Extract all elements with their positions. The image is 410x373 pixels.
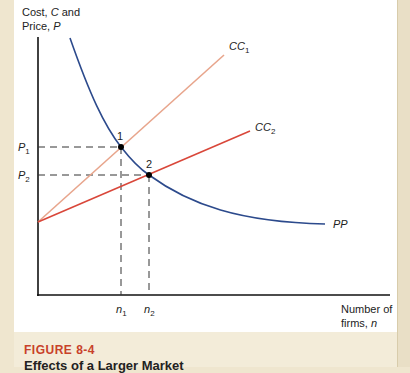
equilibrium-point-2 bbox=[146, 172, 152, 178]
figure-title: Effects of a Larger Market bbox=[24, 358, 184, 373]
y-axis-label-line1: Cost, C and bbox=[22, 6, 80, 18]
guide-lines bbox=[38, 147, 149, 295]
y-axis-label-line2: Price, P bbox=[22, 20, 61, 32]
equilibrium-point-1 bbox=[118, 144, 124, 150]
cc1-label: CC1 bbox=[229, 40, 250, 55]
pp-curve bbox=[70, 38, 325, 224]
figure-number: FIGURE 8-4 bbox=[24, 343, 95, 357]
x-axis-label-line2: firms, n bbox=[341, 317, 377, 329]
equilibrium-label-2: 2 bbox=[146, 158, 152, 170]
pp-label: PP bbox=[333, 218, 348, 230]
cc1-line bbox=[38, 55, 224, 222]
x-tick-n2: n2 bbox=[144, 303, 155, 318]
x-axis-label-line1: Number of bbox=[341, 303, 393, 315]
equilibrium-label-1: 1 bbox=[117, 130, 123, 142]
cc2-label: CC2 bbox=[255, 121, 276, 136]
cc2-line bbox=[38, 131, 250, 222]
x-tick-n1: n1 bbox=[116, 303, 127, 318]
y-tick-p2: P2 bbox=[18, 169, 30, 184]
y-tick-p1: P1 bbox=[18, 141, 30, 156]
